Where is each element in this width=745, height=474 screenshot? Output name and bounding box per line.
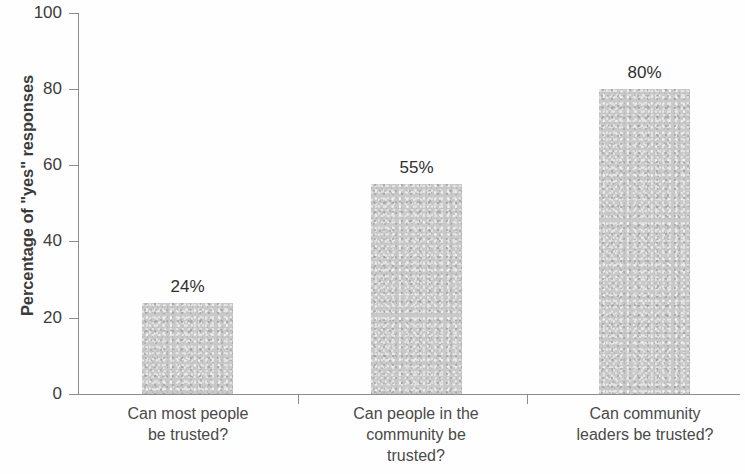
y-axis-line — [78, 13, 79, 395]
x-category-label-1: Can most people be trusted? — [103, 403, 273, 445]
x-category-label-2: Can people in the community be trusted? — [331, 403, 501, 466]
bar-chart: Percentage of "yes" responses 100 80 60 … — [0, 0, 745, 474]
bar-value-label-1: 24% — [142, 277, 233, 297]
y-tick-label-40: 40 — [0, 231, 62, 251]
x-category-label-3: Can community leaders be trusted? — [552, 403, 738, 445]
x-category-label-2-line-3: trusted? — [331, 445, 501, 466]
x-axis-line — [78, 394, 740, 395]
x-tick-mark-2 — [527, 395, 528, 404]
bar-can-most-people-be-trusted — [142, 303, 233, 394]
bar-value-label-3: 80% — [599, 63, 690, 83]
x-category-label-2-line-2: community be — [331, 424, 501, 445]
y-tick-mark-100 — [69, 13, 78, 14]
y-tick-mark-0 — [69, 394, 78, 395]
y-tick-mark-40 — [69, 241, 78, 242]
y-tick-label-0: 0 — [0, 384, 62, 404]
y-tick-label-60: 60 — [0, 155, 62, 175]
bar-can-people-in-the-community-be-trusted — [371, 184, 462, 394]
y-tick-mark-20 — [69, 318, 78, 319]
x-category-label-3-line-2: leaders be trusted? — [552, 424, 738, 445]
x-category-label-2-line-1: Can people in the — [331, 403, 501, 424]
x-category-label-1-line-2: be trusted? — [103, 424, 273, 445]
y-tick-mark-60 — [69, 165, 78, 166]
x-tick-mark-1 — [298, 395, 299, 404]
y-tick-label-80: 80 — [0, 79, 62, 99]
bar-value-label-2: 55% — [371, 158, 462, 178]
y-tick-mark-80 — [69, 89, 78, 90]
y-tick-label-20: 20 — [0, 308, 62, 328]
x-category-label-1-line-1: Can most people — [103, 403, 273, 424]
bar-can-community-leaders-be-trusted — [599, 89, 690, 394]
y-tick-label-100: 100 — [0, 3, 62, 23]
x-category-label-3-line-1: Can community — [552, 403, 738, 424]
